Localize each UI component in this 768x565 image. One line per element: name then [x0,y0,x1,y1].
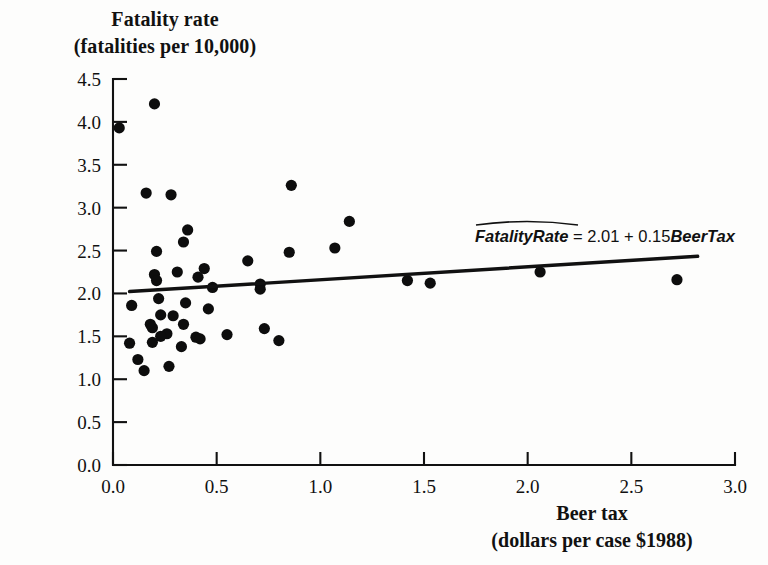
scatter-point [132,354,143,365]
y-axis-tick-marks [113,79,127,465]
regression-hat-accent [476,222,578,226]
y-tick-label: 1.5 [77,326,101,347]
scatter-point [153,293,164,304]
x-axis-tick-marks [113,452,735,465]
scatter-point [168,310,179,321]
scatter-point [147,337,158,348]
scatter-point [671,274,682,285]
y-tick-label: 4.0 [77,112,101,133]
scatter-point [329,242,340,253]
x-tick-label: 1.5 [412,476,436,497]
regression-equation-annotation: FatalityRate = 2.01 + 0.15BeerTax [475,227,736,245]
y-tick-label: 2.5 [77,241,101,262]
scatter-point [402,275,413,286]
scatter-point [178,236,189,247]
scatter-point [141,187,152,198]
scatter-point [149,98,160,109]
x-tick-label: 3.0 [723,476,747,497]
scatter-point [124,338,135,349]
scatter-point [344,216,355,227]
x-axis-tick-labels: 0.00.51.01.52.02.53.0 [101,476,747,497]
y-axis-tick-labels: 0.00.51.01.52.02.53.03.54.04.5 [77,69,101,476]
x-tick-label: 0.0 [101,476,125,497]
fatality-rate-scatter-figure: Fatality rate (fatalities per 10,000) Be… [0,0,768,565]
scatter-point [176,341,187,352]
scatter-point [535,266,546,277]
y-tick-label: 3.0 [77,198,101,219]
scatter-point [139,365,150,376]
y-tick-label: 1.0 [77,369,101,390]
x-tick-label: 1.0 [308,476,332,497]
y-tick-label: 4.5 [77,69,101,90]
x-tick-label: 2.0 [516,476,540,497]
scatter-point [151,275,162,286]
y-tick-label: 3.5 [77,155,101,176]
scatter-point [286,180,297,191]
y-tick-label: 2.0 [77,283,101,304]
scatter-point [194,333,205,344]
scatter-point [182,224,193,235]
scatter-point [180,297,191,308]
scatter-point [221,329,232,340]
scatter-point [147,322,158,333]
y-tick-label: 0.5 [77,412,101,433]
regression-line [130,256,698,291]
scatter-point [172,266,183,277]
scatter-point [284,247,295,258]
scatter-point [114,122,125,133]
x-tick-label: 2.5 [619,476,643,497]
scatter-point [151,246,162,257]
scatter-point [425,278,436,289]
scatter-point [163,361,174,372]
scatter-point [273,335,284,346]
scatter-point [192,272,203,283]
scatter-point [242,255,253,266]
scatter-point [259,323,270,334]
y-tick-label: 0.0 [77,455,101,476]
scatter-point [165,189,176,200]
plot-area: 0.00.51.01.52.02.53.03.54.04.5 0.00.51.0… [0,0,768,565]
x-tick-label: 0.5 [205,476,229,497]
scatter-point [178,319,189,330]
scatter-point [203,303,214,314]
scatter-point [126,300,137,311]
scatter-point [155,309,166,320]
